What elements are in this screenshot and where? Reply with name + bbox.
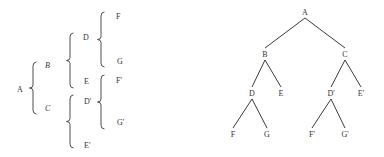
bracket-node-c: C	[45, 104, 51, 113]
edge-b-d	[252, 60, 265, 87]
bracket-node-e: E	[84, 77, 89, 86]
bracket-node-b: B	[45, 61, 50, 70]
edge-d-f	[233, 99, 252, 128]
tree-node-a: A	[302, 8, 308, 17]
bracket-node-f-prime: F'	[116, 76, 122, 85]
brace-d-prime	[98, 75, 105, 129]
brace-a	[30, 62, 37, 114]
bracket-node-g: G	[117, 57, 123, 66]
tree-node-f: F	[231, 130, 236, 139]
tree-node-e-prime: E'	[358, 89, 365, 98]
bracket-node-a: A	[17, 85, 23, 94]
diagram-canvas: ABCDEFGD'E'F'G' ABCDED'E'FGF'G'	[0, 0, 384, 157]
edge-d-prime-f-prime	[312, 99, 331, 128]
tree-diagram: ABCDED'E'FGF'G'	[231, 8, 365, 139]
edge-c-d-prime	[331, 60, 345, 87]
edge-a-b	[265, 18, 305, 48]
tree-node-g-prime: G'	[341, 130, 349, 139]
brace-d	[98, 12, 105, 67]
edge-d-g	[252, 99, 267, 128]
brace-b	[67, 33, 74, 88]
edge-a-c	[305, 18, 345, 48]
edge-b-e	[265, 60, 281, 87]
tree-node-d: D	[249, 89, 255, 98]
tree-node-g: G	[264, 130, 270, 139]
tree-node-d-prime: D'	[327, 89, 335, 98]
bracket-node-d-prime: D'	[84, 97, 92, 106]
edge-c-e-prime	[345, 60, 361, 87]
tree-node-b: B	[262, 50, 267, 59]
bracket-node-f: F	[116, 12, 121, 21]
tree-node-e: E	[279, 89, 284, 98]
bracket-diagram: ABCDEFGD'E'F'G'	[17, 12, 125, 150]
bracket-node-d: D	[83, 33, 89, 42]
tree-node-f-prime: F'	[309, 130, 315, 139]
bracket-node-g-prime: G'	[117, 118, 125, 127]
tree-node-c: C	[342, 50, 347, 59]
edge-d-prime-g-prime	[331, 99, 345, 128]
bracket-node-e-prime: E'	[84, 141, 91, 150]
brace-c	[67, 95, 74, 148]
